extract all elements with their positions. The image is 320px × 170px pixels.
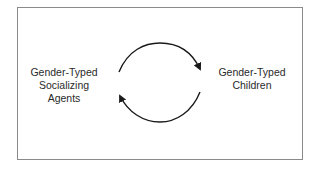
arrow-children-to-agents (120, 92, 200, 122)
arrow-agents-to-children (119, 43, 200, 72)
cycle-arrows (0, 0, 320, 170)
